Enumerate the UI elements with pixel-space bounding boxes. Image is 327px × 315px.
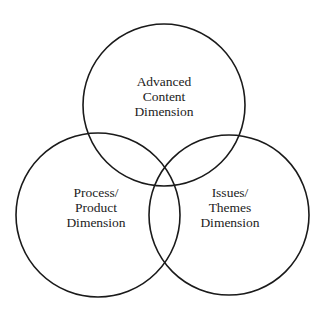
label-line: Themes: [170, 200, 290, 215]
label-line: Dimension: [36, 215, 156, 230]
label-line: Advanced: [104, 74, 224, 89]
label-line: Issues/: [170, 185, 290, 200]
label-advanced-content: Advanced Content Dimension: [104, 74, 224, 119]
venn-diagram: [0, 0, 327, 315]
label-line: Dimension: [104, 104, 224, 119]
label-line: Dimension: [170, 215, 290, 230]
label-line: Content: [104, 89, 224, 104]
label-issues-themes: Issues/ Themes Dimension: [170, 185, 290, 230]
label-line: Product: [36, 200, 156, 215]
label-line: Process/: [36, 185, 156, 200]
label-process-product: Process/ Product Dimension: [36, 185, 156, 230]
